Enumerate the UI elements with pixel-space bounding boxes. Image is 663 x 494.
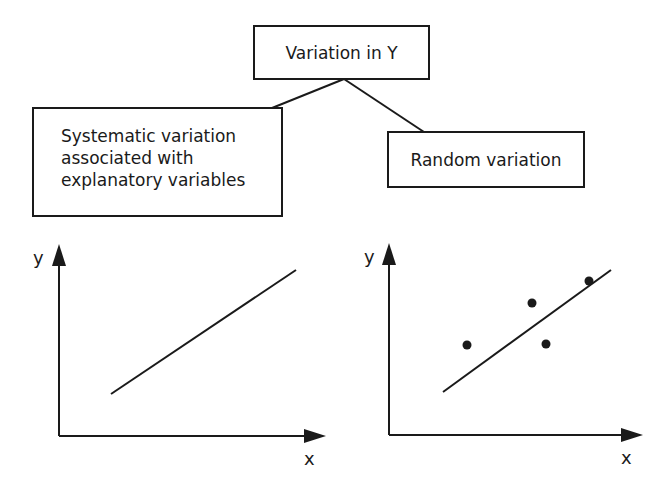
data-point xyxy=(585,277,594,286)
random-label: Random variation xyxy=(411,149,562,171)
data-point xyxy=(463,341,472,350)
connector-left xyxy=(272,79,344,108)
left-x-label: x xyxy=(304,448,315,469)
systematic-line xyxy=(111,270,296,394)
systematic-label-line: associated with xyxy=(61,147,281,169)
random-box: Random variation xyxy=(387,131,585,188)
systematic-label-line: explanatory variables xyxy=(61,169,281,191)
systematic-label-line: Systematic variation xyxy=(61,125,281,147)
y-axis-arrow-icon xyxy=(52,244,66,266)
data-point xyxy=(542,340,551,349)
fit-line xyxy=(443,270,611,392)
data-point xyxy=(528,299,537,308)
right-plot xyxy=(382,243,643,442)
systematic-box: Systematic variation associated with exp… xyxy=(32,107,283,217)
connector-right xyxy=(344,79,424,132)
x-axis-arrow-icon xyxy=(304,429,326,443)
root-label: Variation in Y xyxy=(285,42,397,64)
left-y-label: y xyxy=(33,247,44,268)
x-axis-arrow-icon xyxy=(621,428,643,442)
right-y-label: y xyxy=(364,246,375,267)
left-plot xyxy=(52,244,326,443)
y-axis-arrow-icon xyxy=(382,243,396,265)
right-x-label: x xyxy=(621,447,632,468)
root-box: Variation in Y xyxy=(253,25,430,80)
